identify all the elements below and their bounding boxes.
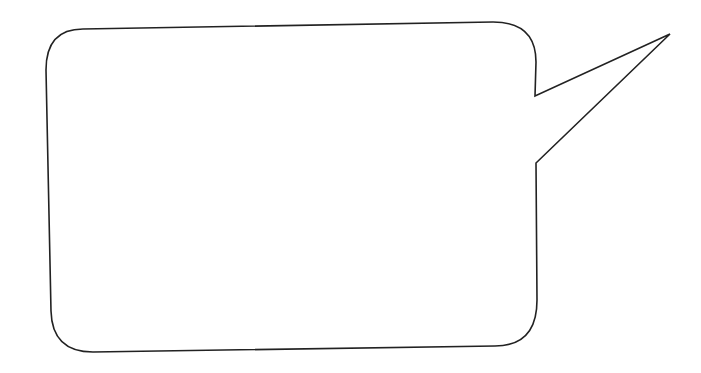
canvas: [0, 0, 701, 373]
speech-bubble-text: [70, 50, 510, 330]
